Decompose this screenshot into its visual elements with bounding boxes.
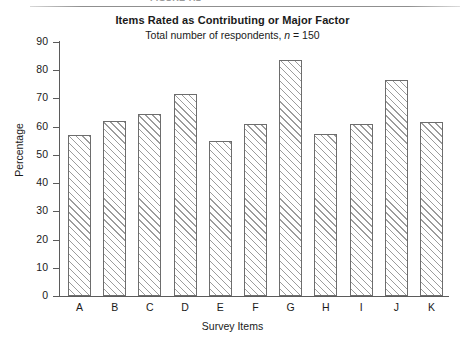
x-axis-tick-label-a: A <box>60 301 100 313</box>
y-axis-tick <box>53 155 60 156</box>
bar-a <box>68 135 91 296</box>
bar-h <box>314 134 337 296</box>
bar-c <box>138 114 161 296</box>
y-axis-line <box>59 41 60 297</box>
bar-b <box>103 121 126 296</box>
x-axis-tick-label-j: J <box>376 301 416 313</box>
x-axis-tick-label-e: E <box>200 301 240 313</box>
y-axis-tick-label: 80 <box>18 64 48 75</box>
bar-f <box>244 124 267 296</box>
bar-j <box>385 80 408 296</box>
x-axis-tick-label-c: C <box>130 301 170 313</box>
y-axis-tick <box>53 211 60 212</box>
y-axis-tick <box>53 268 60 269</box>
bar-chart-plot: 0102030405060708090 Percentage ABCDEFGHI… <box>0 0 465 340</box>
x-axis-tick-label-d: D <box>165 301 205 313</box>
x-axis-title: Survey Items <box>0 320 465 332</box>
bar-k <box>420 122 443 296</box>
bar-g <box>279 60 302 296</box>
y-axis-tick <box>53 296 60 297</box>
y-axis-tick-label: 10 <box>18 262 48 273</box>
x-axis-tick-label-b: B <box>95 301 135 313</box>
x-axis-line <box>59 296 449 297</box>
y-axis-tick-label: 0 <box>18 290 48 301</box>
y-axis-tick-label: 90 <box>18 36 48 47</box>
y-axis-tick <box>53 240 60 241</box>
y-axis-tick <box>53 183 60 184</box>
y-axis-title: Percentage <box>13 102 25 198</box>
x-axis-tick-label-f: F <box>236 301 276 313</box>
x-axis-tick-label-g: G <box>271 301 311 313</box>
bar-e <box>209 141 232 296</box>
x-axis-tick-label-k: K <box>412 301 452 313</box>
y-axis-tick-label: 20 <box>18 234 48 245</box>
y-axis-tick <box>53 98 60 99</box>
x-axis-tick-label-h: H <box>306 301 346 313</box>
y-axis-tick <box>53 42 60 43</box>
y-axis-tick <box>53 127 60 128</box>
x-axis-tick-label-i: I <box>341 301 381 313</box>
bar-i <box>350 124 373 296</box>
y-axis-tick <box>53 70 60 71</box>
y-axis-tick-label: 30 <box>18 205 48 216</box>
bar-d <box>174 94 197 296</box>
